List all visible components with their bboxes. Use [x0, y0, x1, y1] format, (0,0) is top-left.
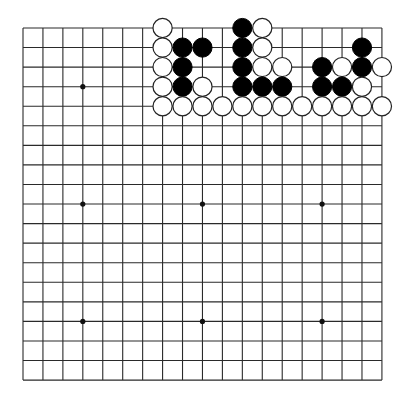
white-stone[interactable]	[273, 58, 292, 77]
white-stone[interactable]	[332, 58, 351, 77]
black-stone[interactable]	[233, 38, 252, 57]
stones-layer	[153, 18, 392, 115]
black-stone[interactable]	[233, 58, 252, 77]
white-stone[interactable]	[372, 97, 391, 116]
black-stone[interactable]	[233, 77, 252, 96]
star-point-icon	[200, 319, 205, 324]
white-stone[interactable]	[213, 97, 232, 116]
white-stone[interactable]	[153, 18, 172, 37]
white-stone[interactable]	[153, 97, 172, 116]
white-stone[interactable]	[253, 58, 272, 77]
white-stone[interactable]	[332, 97, 351, 116]
black-stone[interactable]	[313, 77, 332, 96]
white-stone[interactable]	[193, 97, 212, 116]
white-stone[interactable]	[153, 77, 172, 96]
white-stone[interactable]	[153, 38, 172, 57]
black-stone[interactable]	[273, 77, 292, 96]
black-stone[interactable]	[253, 77, 272, 96]
white-stone[interactable]	[313, 97, 332, 116]
star-point-icon	[80, 84, 85, 89]
star-point-icon	[320, 319, 325, 324]
black-stone[interactable]	[173, 77, 192, 96]
star-point-icon	[80, 201, 85, 206]
black-stone[interactable]	[313, 58, 332, 77]
black-stone[interactable]	[233, 18, 252, 37]
white-stone[interactable]	[253, 18, 272, 37]
white-stone[interactable]	[233, 97, 252, 116]
white-stone[interactable]	[273, 97, 292, 116]
white-stone[interactable]	[352, 77, 371, 96]
white-stone[interactable]	[153, 58, 172, 77]
white-stone[interactable]	[193, 77, 212, 96]
black-stone[interactable]	[173, 38, 192, 57]
white-stone[interactable]	[352, 97, 371, 116]
white-stone[interactable]	[293, 97, 312, 116]
star-point-icon	[80, 319, 85, 324]
star-point-icon	[320, 201, 325, 206]
white-stone[interactable]	[372, 58, 391, 77]
star-point-icon	[200, 201, 205, 206]
white-stone[interactable]	[173, 97, 192, 116]
go-board[interactable]	[0, 0, 412, 399]
black-stone[interactable]	[173, 58, 192, 77]
white-stone[interactable]	[253, 97, 272, 116]
black-stone[interactable]	[332, 77, 351, 96]
black-stone[interactable]	[352, 38, 371, 57]
black-stone[interactable]	[193, 38, 212, 57]
white-stone[interactable]	[253, 38, 272, 57]
black-stone[interactable]	[352, 58, 371, 77]
